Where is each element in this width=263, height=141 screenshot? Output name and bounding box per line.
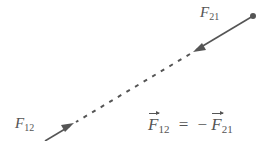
label-force-21-subscript: 21 [209,11,219,22]
line-of-action-dotted [76,54,190,122]
equation: F12 = − F21 [148,116,233,135]
equation-lhs-vector: F [148,116,158,133]
label-force-12-symbol: F [15,115,24,131]
label-force-12: F12 [15,116,34,133]
label-force-21: F21 [200,5,219,22]
label-force-21-symbol: F [200,4,209,20]
newtons-third-law-diagram: F21 F12 F12 = − F21 [0,0,263,141]
equation-equals: = [179,115,189,134]
equation-lhs-subscript: 12 [158,123,169,135]
equation-rhs-subscript: 21 [222,123,233,135]
equation-minus: − [197,115,207,134]
equation-rhs-vector: F [211,116,221,133]
label-force-12-subscript: 12 [24,122,34,133]
